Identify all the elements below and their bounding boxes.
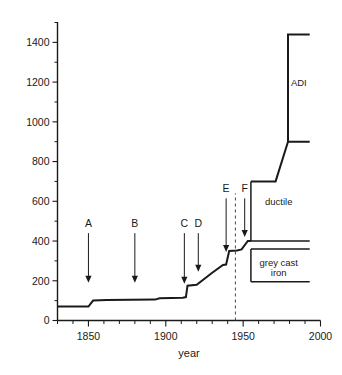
x-tick-label: 1900 [154,330,178,342]
y-tick-label: 400 [32,235,50,247]
annotation-arrow-head-F [242,230,248,237]
annotation-arrow-head-A [85,276,91,283]
y-tick-label: 0 [44,314,50,326]
x-axis-title: year [178,347,200,359]
annotation-label-C: C [181,217,189,229]
x-tick-label: 1950 [231,330,255,342]
y-tick-label: 1200 [26,76,50,88]
y-tick-label: 600 [32,195,50,207]
annotation-label-B: B [131,217,138,229]
x-tick-label: 1850 [77,330,101,342]
y-tick-label: 1400 [26,36,50,48]
annotation-label-D: D [194,217,202,229]
annotation-arrow-head-D [195,265,201,272]
annotation-label-A: A [85,217,92,229]
tensile-strength-chart: 0200400600800100012001400185019001950200… [0,0,342,375]
region-label-adi: ADI [291,77,307,88]
annotation-label-F: F [241,182,247,194]
series-tensile-strength-envelope [58,241,251,307]
y-tick-label: 1000 [26,116,50,128]
region-label-iron: iron [271,267,287,278]
region-label-ductile: ductile [265,196,292,207]
annotation-label-E: E [223,182,230,194]
annotation-arrow-head-C [181,277,187,284]
annotation-arrow-head-B [132,276,138,283]
series-ductile-upper-bound [251,142,310,182]
series-adi-bound [288,34,310,141]
x-tick-label: 2000 [309,330,333,342]
y-tick-label: 200 [32,275,50,287]
chart-container: 0200400600800100012001400185019001950200… [0,0,342,375]
y-tick-label: 800 [32,155,50,167]
